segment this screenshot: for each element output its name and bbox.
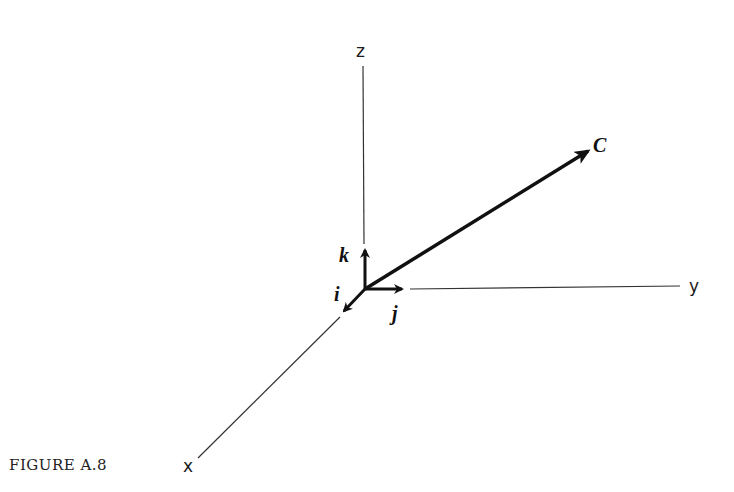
y-axis-label: y (689, 276, 699, 296)
k-label: k (339, 244, 349, 266)
figure-caption: FIGURE A.8 (9, 456, 107, 474)
vector-diagram: z y x k i j C (0, 0, 734, 492)
j-label: j (389, 302, 398, 325)
x-axis-label: x (183, 456, 193, 476)
x-axis (198, 317, 340, 458)
i-label: i (334, 283, 340, 305)
vector-c (365, 151, 588, 289)
c-label: C (593, 134, 607, 156)
y-axis (410, 286, 680, 289)
unit-vector-i (344, 289, 365, 311)
z-axis-label: z (356, 41, 365, 61)
z-axis (363, 66, 364, 244)
